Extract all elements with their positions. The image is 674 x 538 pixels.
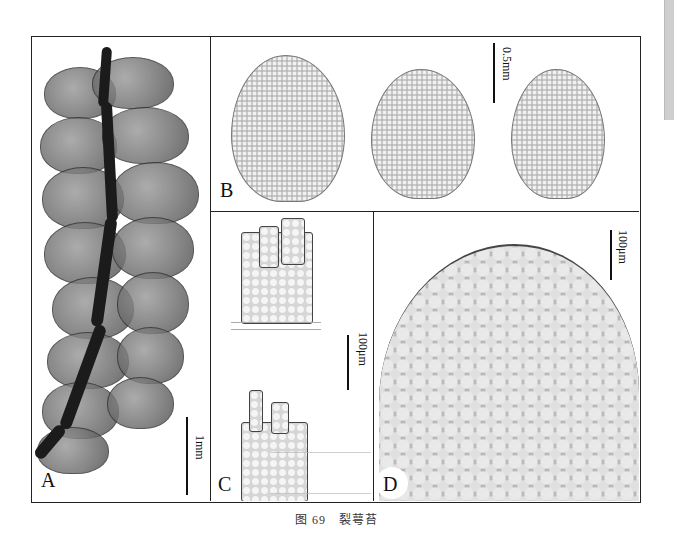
leaf-image-3: [511, 69, 605, 199]
panel-label-c: C: [218, 474, 231, 494]
scale-bar-c: [347, 335, 349, 390]
scale-label-c: 100μm: [355, 332, 370, 366]
leaf-image-1: [231, 55, 345, 202]
panel-label-d: D: [383, 474, 397, 494]
panel-d: 100μm D: [374, 212, 639, 501]
panel-label-a: A: [41, 470, 55, 490]
figure-caption: 图 69 裂萼苔: [0, 510, 673, 528]
scale-bar-a: [186, 417, 188, 495]
leaf-image-2: [371, 69, 475, 199]
figure-plate: 1mm A 0.5mm B 100μm C 100μm: [31, 36, 641, 503]
panel-label-b: B: [220, 180, 233, 200]
panel-b: 0.5mm B: [211, 37, 639, 212]
panel-a: 1mm A: [32, 37, 211, 501]
scale-bar-d: [610, 230, 612, 280]
scale-bar-b: [493, 43, 495, 103]
leaf-cells-image: [379, 244, 639, 501]
scrollbar[interactable]: [664, 0, 674, 120]
scale-label-b: 0.5mm: [499, 47, 514, 81]
scale-label-d: 100μm: [615, 230, 630, 264]
panel-c: 100μm C: [211, 212, 374, 501]
scale-label-a: 1mm: [192, 435, 207, 460]
